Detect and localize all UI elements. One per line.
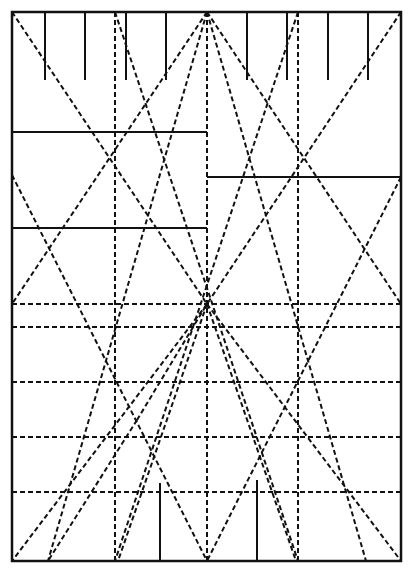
dashed-valley-folds xyxy=(12,12,401,561)
dashed-line-diag-leftedge-mid xyxy=(12,175,207,561)
dashed-line-diag-center-to-bottomcenterright xyxy=(207,304,296,561)
dashed-line-diag-center-bottomleft xyxy=(12,304,207,561)
crease-pattern-diagram xyxy=(0,0,412,576)
dashed-line-diag-topcenter-bottomright xyxy=(207,12,366,561)
dashed-line-diag-topcenter-bottomleft xyxy=(48,12,207,561)
dashed-line-diag-center-bottomright xyxy=(207,304,401,561)
dashed-line-diag-rightedge-mid xyxy=(207,177,401,561)
dashed-line-diag-center-to-bottomcenterleft xyxy=(118,304,207,561)
dashed-line-diag-midleft-bottom xyxy=(48,420,137,561)
diagram-canvas xyxy=(0,0,412,576)
